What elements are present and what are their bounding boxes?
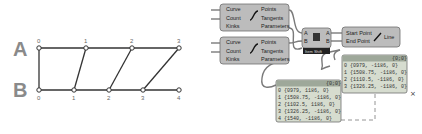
panel-row: 3 {1326.25, -1186, 0} bbox=[278, 109, 341, 115]
index-label: 1 bbox=[72, 95, 76, 101]
index-label: 0 bbox=[37, 95, 41, 101]
index-label: 2 bbox=[107, 95, 111, 101]
point-b2 bbox=[107, 88, 111, 92]
division-diagram: A B 0 1 2 3 0 1 2 3 4 bbox=[13, 38, 181, 101]
output-line[interactable]: Line bbox=[384, 34, 394, 40]
panel-row: 2 {1102.5, 1186, 0} bbox=[278, 102, 335, 108]
index-label: 3 bbox=[177, 38, 181, 44]
point-a1 bbox=[84, 46, 88, 50]
index-label: 3 bbox=[141, 95, 145, 101]
output-points[interactable]: Points bbox=[261, 39, 277, 45]
connector-line bbox=[109, 48, 132, 90]
point-a0 bbox=[37, 46, 41, 50]
input-curve[interactable]: Curve bbox=[226, 39, 241, 45]
panel-row: 1 {1508.75, -1186, 0} bbox=[344, 70, 407, 76]
panel-row: 4 {1540, -1186, 0} bbox=[278, 116, 332, 122]
output-tangents[interactable]: Tangents bbox=[261, 15, 284, 21]
index-label: 1 bbox=[84, 38, 88, 44]
canvas: A B 0 1 2 3 0 1 2 3 4 bbox=[0, 0, 422, 134]
wire-points-b[interactable] bbox=[289, 41, 302, 43]
index-label: 0 bbox=[37, 38, 41, 44]
input-kinks[interactable]: Kinks bbox=[226, 56, 240, 62]
point-a2 bbox=[130, 46, 134, 50]
panel-row: 3 {1326.25, -1186, 0} bbox=[344, 84, 407, 90]
divide-curve-component-1[interactable]: Curve Count Kinks Points Tangents Parame… bbox=[220, 4, 290, 31]
output-b[interactable]: B bbox=[326, 38, 330, 44]
input-count[interactable]: Count bbox=[226, 15, 241, 21]
connector-line bbox=[143, 48, 179, 90]
panel-header: {0;0} bbox=[326, 81, 341, 87]
row-label-a: A bbox=[13, 38, 27, 60]
point-a3 bbox=[177, 46, 181, 50]
input-b[interactable]: B bbox=[304, 38, 308, 44]
index-label: 2 bbox=[130, 38, 134, 44]
wire[interactable] bbox=[289, 28, 302, 49]
point-b3 bbox=[141, 88, 145, 92]
data-panel-2[interactable]: {0;0} 0 {0979, -1186, 0} 1 {1508.75, -11… bbox=[342, 55, 416, 98]
divide-curve-component-2[interactable]: Curve Count Kinks Points Tangents Parame… bbox=[220, 37, 290, 64]
panel-row: 0 {0979, -1186, 0} bbox=[344, 63, 398, 69]
output-tangents[interactable]: Tangents bbox=[261, 48, 284, 54]
panel-row: 0 {0979, 1186, 0} bbox=[278, 88, 329, 94]
point-b1 bbox=[72, 88, 76, 92]
output-a[interactable]: A bbox=[326, 30, 330, 36]
connector-line bbox=[74, 48, 86, 90]
row-label-b: B bbox=[13, 79, 27, 101]
output-parameters[interactable]: Parameters bbox=[261, 23, 290, 29]
point-b0 bbox=[37, 88, 41, 92]
input-a[interactable]: A bbox=[304, 30, 308, 36]
line-component[interactable]: Start Point End Point Line bbox=[342, 27, 400, 47]
input-end-point[interactable]: End Point bbox=[346, 38, 370, 44]
input-curve[interactable]: Curve bbox=[226, 6, 241, 12]
shift-label: Item Shift bbox=[305, 49, 323, 54]
shift-list-component[interactable]: A B A B Item Shift bbox=[302, 28, 331, 54]
input-count[interactable]: Count bbox=[226, 48, 241, 54]
data-panel-1[interactable]: {0;0} 0 {0979, 1186, 0} 1 {1508.75, -118… bbox=[276, 80, 341, 122]
point-b4 bbox=[177, 88, 181, 92]
index-label: 4 bbox=[177, 95, 181, 101]
wire-points-a[interactable] bbox=[289, 10, 302, 33]
panel-row: 1 {1508.75, -1186, 0} bbox=[278, 95, 341, 101]
close-icon[interactable]: × bbox=[410, 90, 416, 98]
panel-row: 2 {1110.5, -1186, 0} bbox=[344, 77, 404, 83]
output-points[interactable]: Points bbox=[261, 6, 277, 12]
input-start-point[interactable]: Start Point bbox=[346, 30, 372, 36]
input-kinks[interactable]: Kinks bbox=[226, 23, 240, 29]
shift-icon bbox=[313, 33, 320, 41]
panel-header: {0;0} bbox=[392, 56, 407, 62]
output-parameters[interactable]: Parameters bbox=[261, 56, 290, 62]
